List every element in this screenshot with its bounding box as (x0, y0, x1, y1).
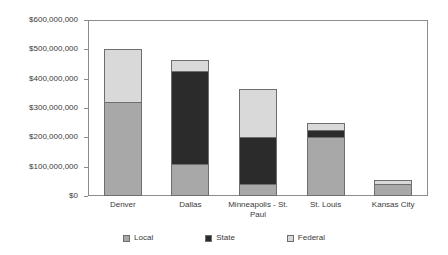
x-axis-tick-label: Dallas (154, 200, 226, 210)
bar-stack[interactable] (171, 60, 209, 196)
bar-stack[interactable] (104, 49, 142, 196)
bar-segment-federal[interactable] (307, 123, 345, 130)
bar-segment-local[interactable] (374, 184, 412, 196)
y-axis-tick-label: $400,000,000 (29, 75, 78, 83)
stacked-bar-chart: $0$100,000,000$200,000,000$300,000,000$4… (0, 0, 448, 255)
legend-item-state[interactable]: State (205, 234, 235, 242)
bar-segment-local[interactable] (171, 164, 209, 196)
bar-stack[interactable] (239, 89, 277, 196)
bar-segment-federal[interactable] (239, 89, 277, 137)
y-axis: $0$100,000,000$200,000,000$300,000,000$4… (0, 0, 84, 216)
state-swatch (205, 235, 212, 242)
legend-item-federal[interactable]: Federal (287, 234, 325, 242)
y-axis-tick-mark (84, 196, 88, 197)
legend-label: State (216, 234, 235, 242)
bar-segment-local[interactable] (104, 102, 142, 196)
bar-segment-federal[interactable] (104, 49, 142, 102)
chart-legend: LocalStateFederal (0, 231, 448, 245)
legend-label: Federal (298, 234, 325, 242)
y-axis-tick-label: $0 (69, 192, 78, 200)
x-axis-tick-label: Denver (87, 200, 159, 210)
bar-stack[interactable] (307, 123, 345, 196)
y-axis-tick-label: $200,000,000 (29, 133, 78, 141)
y-axis-tick-label: $300,000,000 (29, 104, 78, 112)
bar-segment-local[interactable] (307, 137, 345, 196)
bar-segment-state[interactable] (171, 71, 209, 163)
bar-segment-state[interactable] (307, 130, 345, 137)
bar-segment-federal[interactable] (171, 60, 209, 72)
bar-segment-state[interactable] (239, 137, 277, 184)
legend-item-local[interactable]: Local (123, 234, 153, 242)
local-swatch (123, 235, 130, 242)
y-axis-tick-label: $100,000,000 (29, 163, 78, 171)
x-axis-tick-label: St. Louis (290, 200, 362, 210)
y-axis-tick-label: $600,000,000 (29, 16, 78, 24)
bars-layer (89, 20, 427, 196)
legend-label: Local (134, 234, 153, 242)
x-axis-tick-label: Kansas City (357, 200, 429, 210)
y-axis-tick-label: $500,000,000 (29, 45, 78, 53)
bar-segment-local[interactable] (239, 184, 277, 196)
federal-swatch (287, 235, 294, 242)
x-axis: DenverDallasMinneapolis - St. PaulSt. Lo… (89, 200, 427, 228)
x-axis-tick-label: Minneapolis - St. Paul (222, 200, 294, 220)
bar-stack[interactable] (374, 180, 412, 196)
